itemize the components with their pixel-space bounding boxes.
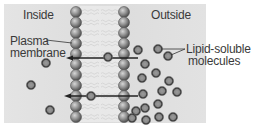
molecule-outside: [140, 103, 149, 112]
phospholipid-head: [119, 59, 130, 70]
bilayer-core: [80, 6, 120, 122]
molecule-outside: [163, 51, 172, 60]
outside-label: Outside: [151, 9, 191, 21]
molecule-outside: [141, 115, 150, 124]
molecule-outside: [138, 89, 147, 98]
molecule-outside: [157, 86, 166, 95]
phospholipid-head: [119, 7, 130, 18]
plasma-membrane-label-line2: membrane: [10, 47, 66, 59]
molecule-outside: [151, 68, 160, 77]
molecule-outside: [140, 59, 149, 68]
molecule-outside: [133, 45, 142, 54]
molecule-outside: [154, 112, 163, 121]
phospholipid-head: [119, 38, 130, 49]
phospholipid-head: [119, 17, 130, 28]
inside-label: Inside: [23, 9, 54, 21]
phospholipid-head: [71, 59, 82, 70]
molecule-outside: [137, 73, 146, 82]
phospholipid-head: [119, 101, 130, 112]
molecule-crossing: [103, 52, 112, 61]
phospholipid-head: [119, 80, 130, 91]
phospholipid-head: [119, 70, 130, 81]
phospholipid-head: [71, 7, 82, 18]
phospholipid-head: [71, 112, 82, 123]
plasma-membrane-leader: [46, 40, 72, 43]
phospholipid-head: [71, 38, 82, 49]
molecule-inside: [26, 80, 35, 89]
phospholipid-head: [71, 101, 82, 112]
molecule-outside: [164, 76, 173, 85]
phospholipid-head: [71, 17, 82, 28]
lipid-tails: [80, 6, 120, 122]
molecule-crossing: [86, 91, 95, 100]
arrow-head-icon: [64, 93, 71, 98]
phospholipid-head: [119, 28, 130, 39]
molecule-outside: [153, 99, 162, 108]
molecule-outside: [127, 113, 136, 122]
lipid-soluble-label-line2: molecules: [188, 55, 240, 67]
molecule-outside: [172, 87, 181, 96]
phospholipid-head: [71, 70, 82, 81]
arrow-head-icon: [66, 55, 73, 60]
lipid-soluble-leader: [171, 49, 185, 55]
phospholipid-head: [71, 80, 82, 91]
molecule-inside: [45, 105, 54, 114]
phospholipid-head: [71, 28, 82, 39]
molecule-outside: [168, 112, 177, 121]
